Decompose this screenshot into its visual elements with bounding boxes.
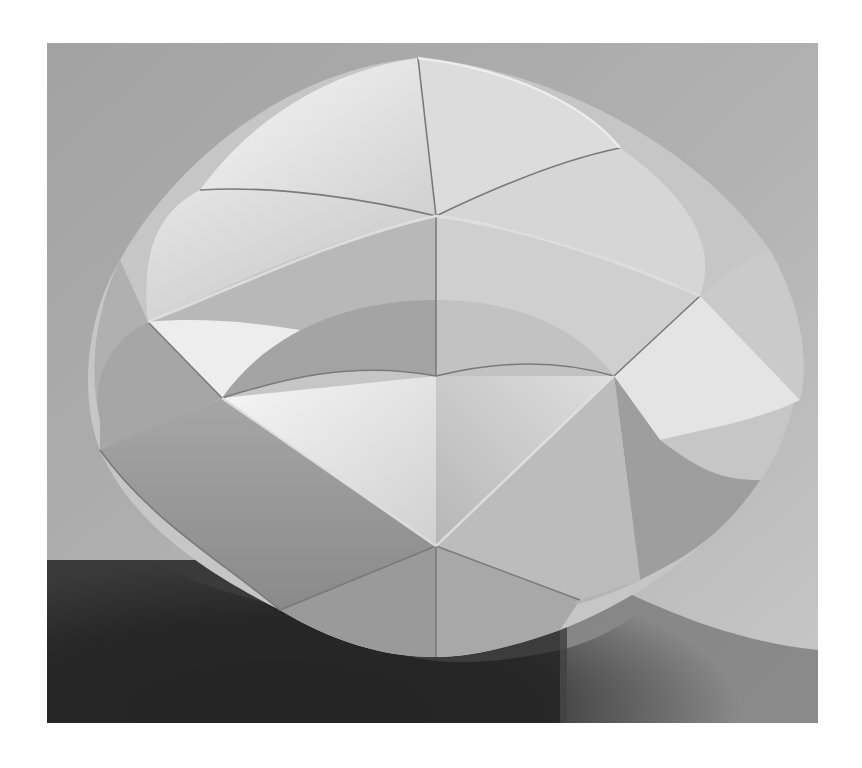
origami-photograph	[47, 43, 818, 723]
origami-sphere-illustration	[47, 43, 818, 723]
